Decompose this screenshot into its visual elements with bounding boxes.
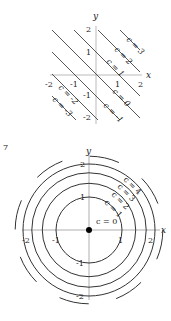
y-tick: -1 — [83, 91, 91, 100]
x-tick: 2 — [138, 80, 143, 89]
bottom-plot: 7 y x 2 1 -1 -2 -2 -1 1 2 c = 0 c = 1 c … — [3, 143, 166, 304]
origin-point — [86, 227, 92, 233]
curve-label: c = -1 — [102, 101, 125, 124]
y-tick: -1 — [76, 259, 84, 268]
y-axis-label: y — [85, 146, 92, 156]
y-axis-label: y — [92, 11, 99, 21]
y-tick: 1 — [86, 48, 91, 57]
x-tick: 1 — [118, 236, 123, 245]
x-tick: -2 — [45, 80, 53, 89]
x-tick: -2 — [22, 236, 30, 245]
y-tick: 2 — [80, 160, 85, 169]
figure-number: 7 — [3, 143, 8, 152]
top-plot: y x 2 1 -1 -2 -2 -1 1 2 c = 3 c = 2 c = … — [45, 11, 151, 124]
x-tick: 2 — [148, 236, 153, 245]
x-tick: -1 — [70, 80, 78, 89]
y-tick: -2 — [83, 113, 91, 122]
curve-label: c = 0 — [96, 217, 117, 226]
x-axis-label: x — [146, 70, 151, 80]
x-tick: -1 — [52, 236, 60, 245]
curve-label: c = 0 — [111, 87, 132, 108]
y-tick: -2 — [76, 292, 84, 301]
level-curves-figure: y x 2 1 -1 -2 -2 -1 1 2 c = 3 c = 2 c = … — [0, 0, 171, 321]
x-axis-label: x — [161, 225, 166, 235]
y-tick: 1 — [80, 193, 85, 202]
y-tick: 2 — [86, 25, 91, 34]
